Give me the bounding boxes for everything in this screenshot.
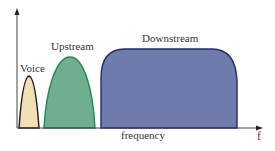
voice-band — [19, 76, 39, 128]
x-axis-symbol: f — [257, 129, 261, 143]
upstream-band — [44, 57, 95, 128]
spectrum-diagram: Voice Upstream Downstream frequency f — [0, 0, 275, 151]
downstream-label: Downstream — [142, 32, 199, 44]
y-axis-arrow-icon — [15, 8, 20, 15]
upstream-label: Upstream — [51, 40, 94, 52]
voice-label: Voice — [20, 62, 45, 74]
x-axis-label: frequency — [121, 129, 165, 141]
downstream-band — [101, 49, 237, 128]
